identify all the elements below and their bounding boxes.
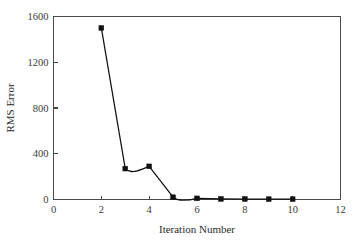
data-point-8 bbox=[242, 197, 247, 202]
x-tick-label-2: 2 bbox=[99, 204, 104, 215]
y-tick-label-800: 800 bbox=[33, 103, 49, 114]
data-point-3 bbox=[123, 166, 128, 171]
series-line-rms-error bbox=[101, 28, 292, 200]
x-tick-label-12: 12 bbox=[335, 204, 346, 215]
axis-frame bbox=[54, 17, 341, 200]
x-tick-label-6: 6 bbox=[194, 204, 199, 215]
data-point-6 bbox=[195, 196, 200, 201]
x-tick-label-8: 8 bbox=[242, 204, 247, 215]
data-point-5 bbox=[171, 195, 176, 200]
ticks-group bbox=[54, 17, 341, 200]
data-point-10 bbox=[290, 197, 295, 202]
chart-plot-area: 040080012001600024681012 Iteration Numbe… bbox=[0, 0, 358, 242]
y-tick-label-1200: 1200 bbox=[28, 57, 49, 68]
chart-figure: 040080012001600024681012 Iteration Numbe… bbox=[0, 0, 358, 242]
x-tick-label-10: 10 bbox=[287, 204, 298, 215]
data-point-2 bbox=[99, 26, 104, 31]
x-tick-label-0: 0 bbox=[51, 204, 56, 215]
data-point-4 bbox=[147, 164, 152, 169]
x-axis-title: Iteration Number bbox=[159, 223, 235, 235]
tick-labels-group: 040080012001600024681012 bbox=[28, 11, 346, 214]
y-tick-label-400: 400 bbox=[33, 148, 49, 159]
x-tick-label-4: 4 bbox=[147, 204, 153, 215]
y-axis-title: RMS Error bbox=[4, 83, 16, 133]
y-tick-label-0: 0 bbox=[43, 194, 48, 205]
data-point-7 bbox=[219, 197, 224, 202]
axes-group bbox=[54, 17, 341, 200]
data-point-9 bbox=[266, 197, 271, 202]
y-tick-label-1600: 1600 bbox=[28, 11, 49, 22]
data-series-group bbox=[99, 26, 295, 202]
